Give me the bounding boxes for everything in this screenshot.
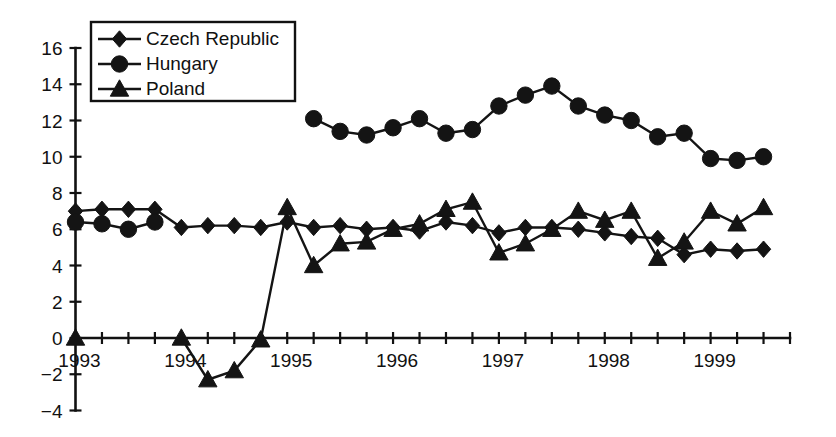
x-tick-label: 1999 [693, 350, 735, 371]
y-tick-label: 10 [41, 147, 62, 168]
legend-label: Czech Republic [146, 28, 279, 49]
legend-label: Poland [146, 78, 205, 99]
x-tick-label: 1995 [270, 350, 312, 371]
y-tick-label: 4 [52, 256, 63, 277]
line-chart: −4−20246810121416 1993199419951996199719… [0, 0, 836, 437]
y-tick-label: −4 [41, 401, 63, 422]
y-tick-label: 16 [41, 38, 62, 59]
y-tick-label: 0 [52, 328, 63, 349]
x-tick-label: 1998 [588, 350, 630, 371]
y-tick-label: 12 [41, 111, 62, 132]
chart-legend: Czech RepublicHungaryPoland [91, 22, 295, 101]
y-tick-label: 2 [52, 292, 63, 313]
legend-label: Hungary [146, 53, 218, 74]
x-tick-label: 1993 [58, 350, 100, 371]
y-tick-label: 14 [41, 74, 63, 95]
y-tick-label: 6 [52, 219, 63, 240]
x-tick-label: 1997 [482, 350, 524, 371]
x-tick-label: 1996 [376, 350, 418, 371]
chart-figure: −4−20246810121416 1993199419951996199719… [0, 0, 836, 437]
y-tick-label: 8 [52, 183, 63, 204]
legend-marker-circle [111, 56, 127, 72]
